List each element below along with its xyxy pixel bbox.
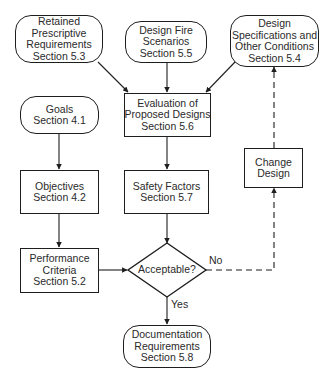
node-line: Section 5.5 xyxy=(140,48,193,60)
node-goals: Goals Section 4.1 xyxy=(20,96,99,134)
node-safety-factors: Safety Factors Section 5.7 xyxy=(124,170,209,214)
node-objectives: Objectives Section 4.2 xyxy=(20,170,99,214)
node-retained-prescriptive-requirements: Retained Prescriptive Requirements Secti… xyxy=(15,15,103,63)
node-evaluation-of-proposed-designs: Evaluation of Proposed Designs Section 5… xyxy=(124,93,211,137)
node-line: Retained xyxy=(38,16,80,28)
edge-retained-to-evaluation xyxy=(98,62,128,92)
node-documentation-requirements: Documentation Requirements Section 5.8 xyxy=(123,325,211,368)
node-line: Other Conditions xyxy=(235,41,314,53)
node-line: Design xyxy=(258,18,291,30)
node-line: Design xyxy=(257,168,290,180)
node-line: Section 5.3 xyxy=(33,51,86,63)
node-line: Section 4.2 xyxy=(33,192,86,204)
node-change-design: Change Design xyxy=(244,148,303,188)
flowchart-canvas: Retained Prescriptive Requirements Secti… xyxy=(0,0,328,380)
node-line: Requirements xyxy=(26,39,91,51)
node-line: Section 5.8 xyxy=(141,352,194,364)
node-line: Section 5.2 xyxy=(33,276,86,288)
node-line: Section 5.6 xyxy=(141,121,194,133)
node-line: Section 5.7 xyxy=(140,192,193,204)
node-line: Section 5.4 xyxy=(248,53,301,65)
edge-label-yes: Yes xyxy=(171,298,188,310)
node-design-specifications: Design Specifications and Other Conditio… xyxy=(230,15,319,67)
node-performance-criteria: Performance Criteria Section 5.2 xyxy=(20,248,99,293)
edge-label-no: No xyxy=(209,254,222,266)
acceptable-decision-label: Acceptable? xyxy=(128,263,206,275)
node-line: Section 4.1 xyxy=(33,115,86,127)
node-design-fire-scenarios: Design Fire Scenarios Section 5.5 xyxy=(125,21,207,63)
edge-design-specs-to-evaluation xyxy=(206,62,235,92)
